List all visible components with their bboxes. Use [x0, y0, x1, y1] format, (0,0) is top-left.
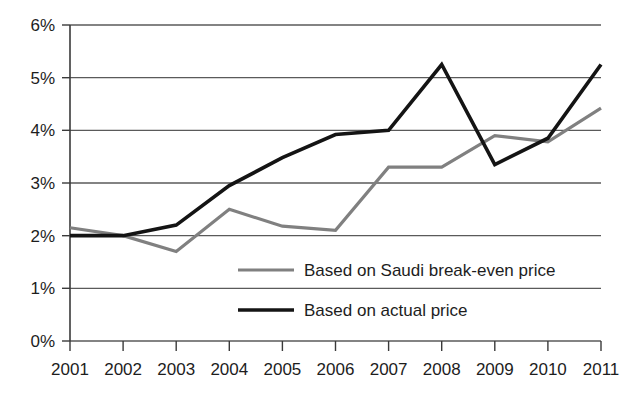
x-tick-marks	[70, 341, 601, 351]
data-series	[70, 65, 601, 252]
legend-label-saudi-break-even-price: Based on Saudi break-even price	[304, 261, 555, 280]
x-axis-labels: 2001 2002 2003 2004 2005 2006 2007 2008 …	[51, 360, 619, 379]
y-axis-label-2pct: 2%	[30, 227, 55, 246]
x-axis-label-2006: 2006	[317, 360, 355, 379]
y-axis-label-5pct: 5%	[30, 69, 55, 88]
y-axis-labels: 6% 5% 4% 3% 2% 1% 0%	[30, 16, 55, 351]
legend: Based on Saudi break-even price Based on…	[238, 261, 555, 320]
x-axis-label-2003: 2003	[157, 360, 195, 379]
legend-label-actual-price: Based on actual price	[304, 301, 468, 320]
y-axis-label-0pct: 0%	[30, 332, 55, 351]
x-axis-label-2011: 2011	[583, 360, 620, 379]
x-axis-label-2005: 2005	[263, 360, 301, 379]
y-axis-label-6pct: 6%	[30, 16, 55, 35]
x-axis-label-2010: 2010	[529, 360, 567, 379]
y-axis-label-1pct: 1%	[30, 279, 55, 298]
x-axis-label-2001: 2001	[51, 360, 89, 379]
x-axis-label-2009: 2009	[476, 360, 514, 379]
line-chart: 6% 5% 4% 3% 2% 1% 0% 2001 2002 2003	[0, 0, 624, 396]
series-line-actual-price	[70, 65, 601, 236]
x-axis-label-2007: 2007	[370, 360, 408, 379]
y-axis-label-3pct: 3%	[30, 174, 55, 193]
y-tick-marks	[62, 25, 70, 341]
x-axis-label-2008: 2008	[423, 360, 461, 379]
chart-canvas: 6% 5% 4% 3% 2% 1% 0% 2001 2002 2003	[0, 0, 624, 396]
gridlines	[70, 25, 601, 341]
y-axis-label-4pct: 4%	[30, 121, 55, 140]
x-axis-label-2002: 2002	[104, 360, 142, 379]
x-axis-label-2004: 2004	[210, 360, 248, 379]
